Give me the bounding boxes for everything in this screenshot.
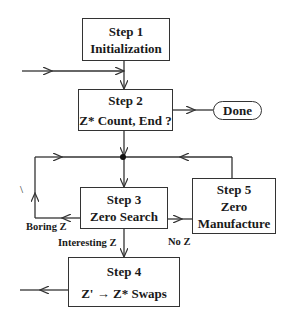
edge-label-noz: No Z xyxy=(168,236,190,247)
step5-line2: Zero xyxy=(221,198,247,215)
step2-title: Step 2 xyxy=(108,92,142,109)
step2-subtitle: Z* Count, End ? xyxy=(79,112,171,129)
step3-subtitle: Zero Search xyxy=(90,208,158,225)
step5-line3: Manufacture xyxy=(198,215,271,232)
stray-mark: \ xyxy=(20,183,23,195)
step5-box: Step 5 Zero Manufacture xyxy=(192,178,276,234)
done-terminal: Done xyxy=(213,101,262,120)
step3-title: Step 3 xyxy=(107,191,141,208)
swap-arrow-icon: → xyxy=(97,286,110,301)
done-label: Done xyxy=(223,103,252,119)
step4-subtitle: Z' → Z* Swaps xyxy=(81,285,167,302)
step4-subtitle-right: Z* Swaps xyxy=(113,286,167,301)
step1-title: Step 1 xyxy=(109,23,143,40)
step2-box: Step 2 Z* Count, End ? xyxy=(78,89,173,131)
edge-label-interesting: Interesting Z xyxy=(58,237,116,248)
step4-title: Step 4 xyxy=(107,263,141,280)
junction-dot xyxy=(120,154,126,160)
step4-subtitle-left: Z' xyxy=(81,286,93,301)
step4-box: Step 4 Z' → Z* Swaps xyxy=(68,257,180,307)
step3-box: Step 3 Zero Search xyxy=(80,187,168,229)
step5-title: Step 5 xyxy=(217,181,251,198)
step1-box: Step 1 Initialization xyxy=(82,18,170,61)
edge-label-boring: Boring Z xyxy=(26,221,67,232)
step1-subtitle: Initialization xyxy=(90,40,162,57)
